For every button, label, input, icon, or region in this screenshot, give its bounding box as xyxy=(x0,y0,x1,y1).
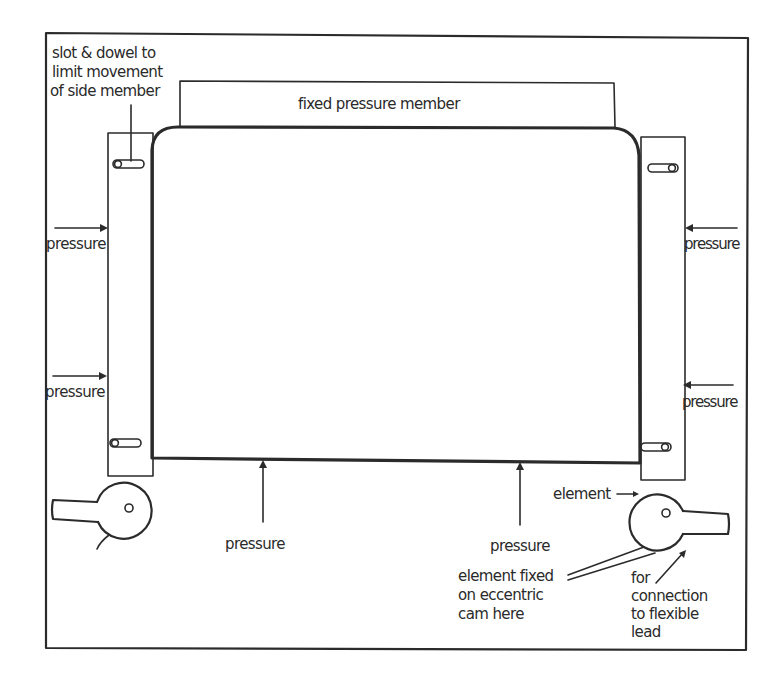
right-eccentric-cam xyxy=(629,495,729,551)
label-slot-dowel-2: limit movement xyxy=(52,64,163,80)
label-pressure-left-upper: pressure xyxy=(46,236,106,252)
right-dowel-upper xyxy=(669,165,676,172)
label-pressure-right-upper: pressure xyxy=(684,236,739,252)
label-connection-3: to flexible xyxy=(631,606,699,622)
label-element-fixed-1: element fixed xyxy=(458,568,553,584)
arrow-right-upper xyxy=(685,224,737,232)
label-element-fixed-3: cam here xyxy=(458,606,524,622)
left-dowel-upper xyxy=(115,161,122,168)
label-pressure-bottom-left: pressure xyxy=(225,536,285,552)
right-side-member xyxy=(641,137,685,480)
label-connection-1: for xyxy=(631,570,650,586)
label-fixed-pressure-member: fixed pressure member xyxy=(298,96,460,112)
arrow-left-lower xyxy=(53,372,107,380)
arrow-bottom-left xyxy=(259,460,267,522)
label-pressure-bottom-right: pressure xyxy=(490,538,550,554)
left-eccentric-cam xyxy=(52,483,152,549)
heating-element xyxy=(152,127,640,463)
label-connection-2: connection xyxy=(631,588,708,604)
arrow-left-upper xyxy=(55,224,108,232)
left-dowel-lower xyxy=(112,440,119,447)
arrow-bottom-right xyxy=(516,462,524,525)
label-element: element xyxy=(553,486,611,502)
right-dowel-lower xyxy=(662,444,669,451)
label-slot-dowel-3: of side member xyxy=(50,83,160,99)
label-pressure-right-lower: pressure xyxy=(682,394,737,410)
label-connection-4: lead xyxy=(631,624,661,640)
label-pressure-left-lower: pressure xyxy=(45,384,105,400)
arrow-right-lower xyxy=(683,381,733,389)
lead-leader xyxy=(656,553,683,583)
left-side-member xyxy=(108,133,153,476)
label-element-fixed-2: on eccentric xyxy=(458,587,543,603)
label-slot-dowel-1: slot & dowel to xyxy=(52,45,155,61)
